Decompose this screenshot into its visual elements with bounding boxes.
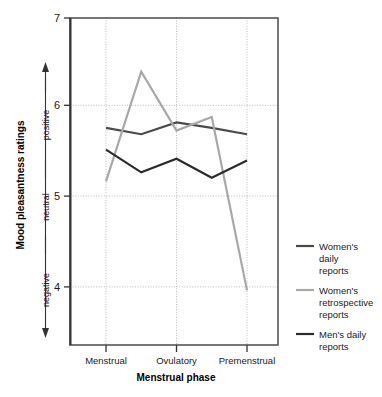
plot-background xyxy=(70,18,278,345)
x-tick-label-ovulatory: Ovulatory xyxy=(156,355,197,366)
y-scale-word-positive: positive xyxy=(41,110,51,141)
y-axis-ticks xyxy=(64,18,70,287)
x-tick-label-premenstrual: Premenstrual xyxy=(219,355,276,366)
legend-label-mens-daily-line1: Men's daily xyxy=(319,329,366,340)
x-axis-title: Menstrual phase xyxy=(137,372,216,383)
y-tick-label-5: 5 xyxy=(54,190,60,202)
y-scale-word-negative: negative xyxy=(41,273,51,307)
y-tick-label-6: 6 xyxy=(54,99,60,111)
legend-label-womens-retro-line1: Women's xyxy=(319,285,358,296)
legend-label-womens-retro-line2: retrospective xyxy=(319,297,373,308)
legend-label-womens-daily-line2: daily xyxy=(319,253,339,264)
x-axis-ticks xyxy=(106,345,247,352)
chart-svg: 7 6 5 4 Menstrual Ovulatory Premenstrual… xyxy=(0,0,382,397)
y-axis-title: Mood pleasantness ratings xyxy=(15,120,26,249)
legend-label-womens-retro-line3: reports xyxy=(319,309,349,320)
legend-label-mens-daily-line2: reports xyxy=(319,341,349,352)
x-tick-label-menstrual: Menstrual xyxy=(85,355,127,366)
y-scale-word-neutral: neutral xyxy=(41,193,51,221)
mood-pleasantness-line-chart: 7 6 5 4 Menstrual Ovulatory Premenstrual… xyxy=(0,0,382,397)
y-tick-label-4: 4 xyxy=(54,281,60,293)
y-tick-label-7: 7 xyxy=(54,12,60,24)
chart-legend: Women's daily reports Women's retrospect… xyxy=(296,241,373,352)
legend-label-womens-daily-line1: Women's xyxy=(319,241,358,252)
legend-label-womens-daily-line3: reports xyxy=(319,265,349,276)
